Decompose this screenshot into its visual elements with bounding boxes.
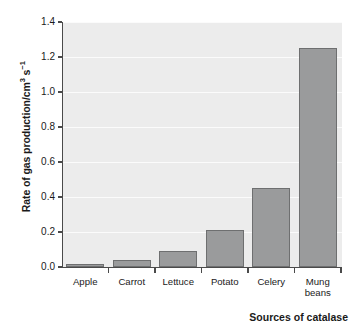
x-axis-tick-mark — [108, 268, 109, 273]
x-axis-tick-label: Carrot — [109, 276, 156, 287]
bar — [159, 251, 197, 267]
bar-chart-figure: Rate of gas production/cm3 s−1 0.00.20.4… — [0, 0, 355, 332]
y-axis-tick-mark — [58, 231, 62, 232]
y-axis-tick-label: 0.0 — [15, 262, 55, 272]
y-axis-tick-mark — [58, 266, 62, 267]
y-axis-tick-mark — [58, 161, 62, 162]
x-axis-tick-mark — [340, 268, 341, 273]
bar — [206, 230, 244, 267]
y-axis-tick-mark — [58, 21, 62, 22]
y-axis-tick-mark — [58, 91, 62, 92]
x-axis-tick-label: Apple — [62, 276, 109, 287]
y-axis-tick-label: 0.2 — [15, 227, 55, 237]
gridline — [63, 22, 342, 23]
y-axis-tick-label: 1.0 — [15, 87, 55, 97]
bar — [113, 260, 151, 267]
y-axis-tick-label: 1.2 — [15, 52, 55, 62]
x-axis-title: Sources of catalase — [0, 311, 348, 323]
x-axis-tick-mark — [154, 268, 155, 273]
y-axis-tick-label: 0.4 — [15, 192, 55, 202]
bar — [299, 48, 337, 267]
x-axis-tick-label: Celery — [248, 276, 295, 287]
x-axis-tick-label: Mungbeans — [295, 276, 342, 298]
x-axis-tick-label: Potato — [202, 276, 249, 287]
x-axis-tick-mark — [294, 268, 295, 273]
y-axis-tick-mark — [58, 196, 62, 197]
bar — [66, 264, 104, 268]
y-axis-tick-label: 0.8 — [15, 122, 55, 132]
y-axis-tick-label: 0.6 — [15, 157, 55, 167]
x-axis-tick-mark — [247, 268, 248, 273]
x-axis-tick-mark — [201, 268, 202, 273]
x-axis-tick-label: Lettuce — [155, 276, 202, 287]
y-axis-tick-mark — [58, 56, 62, 57]
bar — [252, 188, 290, 267]
y-axis-tick-mark — [58, 126, 62, 127]
y-axis-tick-label: 1.4 — [15, 17, 55, 27]
